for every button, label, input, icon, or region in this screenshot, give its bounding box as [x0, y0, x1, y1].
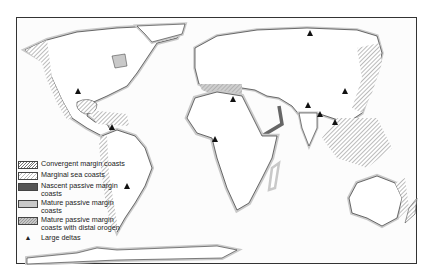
- triangle-icon: ▲: [18, 234, 38, 242]
- australia: [349, 176, 409, 226]
- legend-item-deltas: ▲ Large deltas: [18, 234, 128, 242]
- africa: [187, 92, 279, 210]
- north-america: [25, 26, 182, 136]
- legend-item-nascent: Nascent passive margin coasts: [18, 182, 128, 197]
- legend-item-convergent: Convergent margin coasts: [18, 160, 128, 169]
- light-hatch-swatch-icon: [18, 172, 38, 180]
- legend-item-marginal: Marginal sea coasts: [18, 171, 128, 180]
- madagascar: [269, 163, 279, 190]
- hudson-bay: [112, 54, 127, 68]
- gray-swatch-icon: [18, 200, 38, 208]
- southeast-asia-convergent: [322, 118, 392, 168]
- dark-swatch-icon: [18, 183, 38, 191]
- hatch-swatch-icon: [18, 161, 38, 169]
- legend-item-mature-distal: Mature passive margin coasts with distal…: [18, 216, 128, 231]
- legend-item-mature: Mature passive margin coasts: [18, 199, 128, 214]
- gray-hatch-swatch-icon: [18, 217, 38, 225]
- map-legend: Convergent margin coasts Marginal sea co…: [18, 160, 128, 243]
